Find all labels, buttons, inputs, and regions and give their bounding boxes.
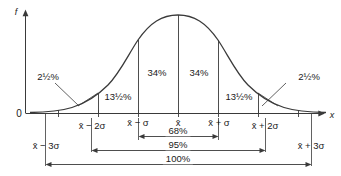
x-axis: [26, 111, 326, 117]
region-label-left-outer: 13½%: [105, 92, 132, 102]
y-axis-label: f: [15, 8, 18, 17]
x-tick-label-plus-1-sigma: x̄ + σ: [208, 118, 229, 128]
x-tick-label-minus-3-sigma: x̄ − 3σ: [33, 141, 60, 151]
origin-label: 0: [16, 109, 22, 119]
y-axis: [23, 10, 29, 114]
leader-right-outer: [258, 93, 278, 106]
x-tick-label-minus-2-sigma: x̄ − 2σ: [79, 121, 106, 131]
leader-left-tail: [55, 83, 79, 106]
x-tick-label-plus-2-sigma: x̄ + 2σ: [252, 121, 279, 131]
normal-curve: [30, 15, 326, 113]
region-label-left-tail: 2½%: [37, 72, 59, 82]
leader-left-outer: [78, 93, 98, 106]
region-label-right-inner: 34%: [189, 68, 208, 78]
normal-distribution-figure: f x 0 2½% 13½% 34% 34% 13½% 2½% x̄ − 3σ …: [0, 0, 341, 176]
bracket-label-100: 100%: [163, 154, 193, 164]
x-axis-arrowhead: [318, 111, 325, 117]
region-label-right-outer: 13½%: [226, 92, 253, 102]
y-axis-arrowhead: [23, 10, 29, 17]
leader-right-tail: [262, 83, 286, 106]
x-tick-label-minus-1-sigma: x̄ − σ: [127, 118, 148, 128]
region-label-left-inner: 34%: [147, 68, 166, 78]
x-axis-label: x: [330, 111, 335, 120]
region-label-right-tail: 2½%: [298, 72, 320, 82]
bracket-label-68: 68%: [165, 126, 190, 136]
x-tick-label-plus-3-sigma: x̄ + 3σ: [298, 141, 325, 151]
bracket-label-95: 95%: [165, 140, 190, 150]
